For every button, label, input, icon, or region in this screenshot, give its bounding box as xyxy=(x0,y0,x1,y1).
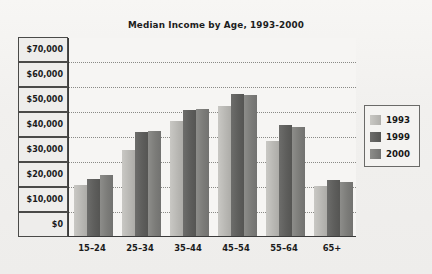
plot-area xyxy=(69,38,356,236)
legend-item: 1999 xyxy=(370,128,415,145)
x-axis-tick-label: 65+ xyxy=(304,243,360,253)
legend-label: 2000 xyxy=(386,149,410,159)
y-axis-tick-label: $20,000 xyxy=(18,162,68,187)
bar xyxy=(122,150,136,236)
y-axis-tick-label: $0 xyxy=(18,212,68,237)
legend-swatch-icon xyxy=(370,149,381,159)
chart-page: Median Income by Age, 1993-2000 $0$10,00… xyxy=(0,0,432,274)
bar xyxy=(279,125,292,236)
bar xyxy=(183,110,196,236)
legend-label: 1993 xyxy=(386,115,410,125)
bar xyxy=(340,182,353,237)
bar xyxy=(87,179,100,237)
bar xyxy=(218,106,232,236)
y-axis-tick-labels: $0$10,000$20,000$30,000$40,000$50,000$60… xyxy=(18,38,68,237)
x-axis-tick-labels: 15–2425–3435–4445–5455–6465+ xyxy=(68,243,356,259)
y-axis-tick-label: $30,000 xyxy=(18,137,68,162)
plot-frame xyxy=(68,38,356,237)
y-axis-tick-label: $40,000 xyxy=(18,112,68,137)
legend-item: 2000 xyxy=(370,145,415,162)
y-axis-tick-label: $10,000 xyxy=(18,187,68,212)
bar-group xyxy=(69,38,117,236)
bar xyxy=(100,175,113,236)
bar-group xyxy=(165,38,213,236)
bar-group xyxy=(117,38,165,236)
bar-group xyxy=(213,38,261,236)
bar xyxy=(196,109,209,237)
bar-group xyxy=(261,38,309,236)
bar xyxy=(74,185,88,236)
bar xyxy=(231,94,244,237)
bar xyxy=(292,127,305,236)
bar xyxy=(327,180,340,236)
chart-legend: 199319992000 xyxy=(364,105,420,167)
bar xyxy=(244,95,257,236)
y-axis-tick-label: $70,000 xyxy=(18,37,68,62)
chart-title: Median Income by Age, 1993-2000 xyxy=(0,20,432,30)
y-axis-tick-label: $60,000 xyxy=(18,62,68,87)
legend-item: 1993 xyxy=(370,111,415,128)
bar xyxy=(314,186,328,237)
bar xyxy=(170,121,184,236)
legend-label: 1999 xyxy=(386,132,410,142)
y-axis-tick-label: $50,000 xyxy=(18,87,68,112)
bar-group xyxy=(309,38,357,236)
legend-swatch-icon xyxy=(370,132,381,142)
bar xyxy=(148,131,161,236)
bar xyxy=(266,141,280,236)
bar xyxy=(135,132,148,236)
legend-swatch-icon xyxy=(370,115,381,125)
